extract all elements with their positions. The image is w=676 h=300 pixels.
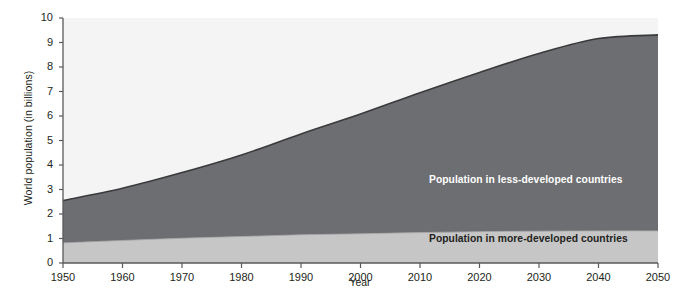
- y-tick-label: 7: [27, 86, 53, 97]
- x-tick-label: 1980: [216, 272, 268, 283]
- chart-plot-svg: [0, 0, 676, 300]
- population-area-chart: World population (in billions) Year 0123…: [0, 0, 676, 300]
- x-tick-label: 2040: [573, 272, 625, 283]
- x-tick-label: 1970: [156, 272, 208, 283]
- y-tick-label: 4: [27, 159, 53, 170]
- x-tick-label: 2020: [454, 272, 506, 283]
- x-tick-label: 1950: [37, 272, 89, 283]
- y-tick-label: 2: [27, 208, 53, 219]
- y-tick-label: 0: [27, 257, 53, 268]
- x-tick-label: 1990: [275, 272, 327, 283]
- x-axis-tick-marks: [63, 263, 658, 268]
- x-tick-label: 2000: [335, 272, 387, 283]
- x-tick-label: 1960: [97, 272, 149, 283]
- annotation-less-developed: Population in less-developed countries: [429, 174, 623, 185]
- y-tick-label: 8: [27, 61, 53, 72]
- y-tick-label: 10: [27, 12, 53, 23]
- y-tick-label: 5: [27, 135, 53, 146]
- y-tick-label: 6: [27, 110, 53, 121]
- y-tick-label: 1: [27, 233, 53, 244]
- annotation-more-developed: Population in more-developed countries: [429, 233, 628, 244]
- x-tick-label: 2010: [394, 272, 446, 283]
- x-tick-label: 2030: [513, 272, 565, 283]
- y-tick-label: 3: [27, 184, 53, 195]
- x-tick-label: 2050: [632, 272, 676, 283]
- y-tick-label: 9: [27, 37, 53, 48]
